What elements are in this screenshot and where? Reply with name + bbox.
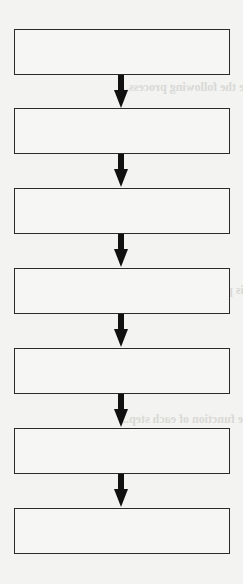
flow-box-5[interactable] [14,348,230,394]
down-arrow-icon [114,394,128,428]
down-arrow-icon [114,75,128,108]
down-arrow-icon [114,234,128,268]
flow-box-7[interactable] [14,508,230,554]
bleed-text-3: ...the function of each step... [120,412,243,427]
flow-box-4[interactable] [14,268,230,314]
down-arrow-icon [114,154,128,188]
down-arrow-icon [114,314,128,348]
flow-box-3[interactable] [14,188,230,234]
flow-box-6[interactable] [14,428,230,474]
down-arrow-icon [114,474,128,508]
flow-box-1[interactable] [14,29,230,75]
flow-box-2[interactable] [14,108,230,154]
bleed-text-1: ...briefly describe the following proces… [120,80,243,95]
